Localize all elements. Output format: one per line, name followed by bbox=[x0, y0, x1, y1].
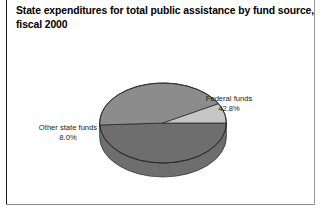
slice-label-other-state-funds-name: Other state funds bbox=[25, 123, 111, 133]
right-border-rule bbox=[314, 0, 315, 205]
slice-label-other-state-funds: Other state funds 8.0% bbox=[25, 123, 111, 142]
slice-label-federal-funds-name: Federal funds bbox=[187, 94, 271, 104]
pie-chart-figure: State expenditures for total public assi… bbox=[0, 0, 322, 217]
slice-label-federal-funds: Federal funds 42.8% bbox=[187, 94, 271, 113]
slice-label-federal-funds-value: 42.8% bbox=[187, 104, 271, 114]
slice-label-other-state-funds-value: 8.0% bbox=[25, 133, 111, 143]
chart-plot-area: Federal funds 42.8% Other state funds 8.… bbox=[7, 40, 314, 204]
chart-title: State expenditures for total public assi… bbox=[16, 4, 308, 31]
bottom-border-rule bbox=[6, 204, 315, 205]
chart-title-line-1: State expenditures for total public assi… bbox=[16, 4, 308, 18]
pie-svg bbox=[99, 71, 227, 183]
chart-title-line-2: fiscal 2000 bbox=[16, 18, 308, 32]
pie-graphic bbox=[99, 71, 227, 183]
